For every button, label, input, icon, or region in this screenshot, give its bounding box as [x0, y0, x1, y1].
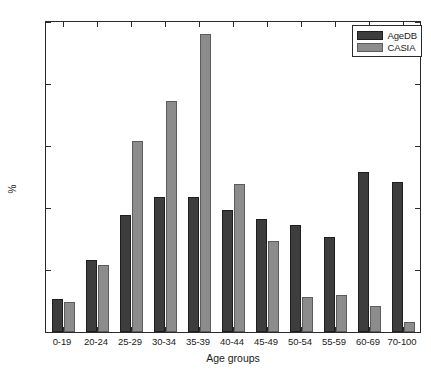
legend-label-casia: CASIA: [387, 42, 415, 53]
x-tick-mark: [335, 327, 336, 332]
bar-group: [46, 22, 80, 332]
x-tick-label: 25-29: [118, 336, 142, 347]
bar-agedb-30-34: [154, 197, 165, 332]
y-tick-mark: [46, 332, 51, 333]
x-tick-label: 20-24: [84, 336, 108, 347]
x-tick-mark: [165, 327, 166, 332]
bar-group: [216, 22, 250, 332]
x-tick-mark: [131, 327, 132, 332]
bar-casia-55-59: [336, 295, 347, 332]
x-axis-tick-labels: 0-1920-2425-2930-3435-3940-4445-4950-545…: [45, 336, 421, 352]
bar-casia-50-54: [302, 297, 313, 332]
x-tick-mark: [165, 22, 166, 27]
bar-casia-20-24: [98, 265, 109, 332]
x-axis-title: Age groups: [45, 352, 421, 364]
bar-agedb-0-19: [52, 299, 63, 332]
x-tick-label: 60-69: [356, 336, 380, 347]
legend-item-agedb: AgeDB: [357, 29, 417, 41]
bar-group: [148, 22, 182, 332]
x-tick-mark: [301, 22, 302, 27]
bar-agedb-20-24: [86, 260, 97, 332]
bar-casia-35-39: [200, 34, 211, 332]
x-tick-mark: [233, 22, 234, 27]
bar-group: [284, 22, 318, 332]
x-tick-mark: [267, 327, 268, 332]
legend-swatch-agedb: [357, 31, 383, 40]
x-tick-mark: [97, 22, 98, 27]
x-tick-mark: [403, 327, 404, 332]
bar-group: [386, 22, 420, 332]
x-tick-mark: [233, 327, 234, 332]
x-tick-label: 0-19: [53, 336, 72, 347]
x-tick-label: 45-49: [254, 336, 278, 347]
bar-agedb-40-44: [222, 210, 233, 332]
bar-chart-figure: % 00.050.10.150.20.25 0-1920-2425-2930-3…: [0, 0, 431, 377]
bar-agedb-50-54: [290, 225, 301, 332]
bar-agedb-35-39: [188, 197, 199, 332]
plot-area: [45, 21, 421, 333]
bar-group: [250, 22, 284, 332]
x-tick-mark: [369, 327, 370, 332]
bar-group: [318, 22, 352, 332]
x-tick-mark: [335, 22, 336, 27]
x-tick-label: 70-100: [388, 336, 417, 347]
y-tick-mark: [415, 332, 420, 333]
x-tick-mark: [199, 22, 200, 27]
bar-agedb-25-29: [120, 215, 131, 332]
bar-group: [114, 22, 148, 332]
x-tick-mark: [131, 22, 132, 27]
x-tick-mark: [63, 22, 64, 27]
x-tick-mark: [97, 327, 98, 332]
bar-casia-0-19: [64, 302, 75, 332]
bar-group: [182, 22, 216, 332]
bar-group: [80, 22, 114, 332]
legend-item-casia: CASIA: [357, 41, 417, 53]
bar-casia-25-29: [132, 141, 143, 332]
legend-label-agedb: AgeDB: [387, 30, 417, 41]
bar-casia-60-69: [370, 306, 381, 332]
bar-casia-70-100: [404, 322, 415, 332]
bar-casia-45-49: [268, 241, 279, 332]
x-tick-mark: [199, 327, 200, 332]
x-tick-mark: [267, 22, 268, 27]
bar-agedb-55-59: [324, 237, 335, 332]
bar-agedb-60-69: [358, 172, 369, 332]
bar-casia-30-34: [166, 101, 177, 332]
legend-swatch-casia: [357, 43, 383, 52]
x-tick-label: 50-54: [288, 336, 312, 347]
x-tick-label: 40-44: [220, 336, 244, 347]
x-tick-label: 55-59: [322, 336, 346, 347]
y-axis-title: %: [7, 184, 18, 193]
bar-agedb-70-100: [392, 182, 403, 332]
x-tick-label: 30-34: [152, 336, 176, 347]
bar-group: [352, 22, 386, 332]
bar-agedb-45-49: [256, 219, 267, 332]
bar-casia-40-44: [234, 184, 245, 332]
x-tick-mark: [301, 327, 302, 332]
x-tick-label: 35-39: [186, 336, 210, 347]
x-tick-mark: [63, 327, 64, 332]
chart-legend: AgeDB CASIA: [352, 25, 422, 57]
